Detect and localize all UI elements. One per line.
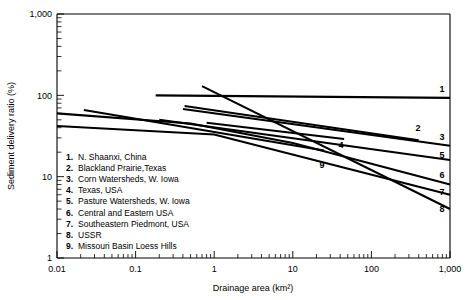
y-tick-label: 1 <box>47 253 52 263</box>
x-tick-label: 0.01 <box>48 264 66 274</box>
legend-label-1: N. Shaanxi, China <box>78 152 147 162</box>
legend-number-4: 4. <box>66 185 73 195</box>
legend-number-5: 5. <box>66 196 73 206</box>
x-tick-label: 100 <box>364 264 379 274</box>
legend-label-5: Pasture Watersheds, W. Iowa <box>78 196 190 206</box>
legend-label-9: Missouri Basin Loess Hills <box>78 241 177 251</box>
legend-number-7: 7. <box>66 219 73 229</box>
series-label-2: 2 <box>415 123 420 133</box>
legend-number-8: 8. <box>66 230 73 240</box>
series-label-9: 9 <box>319 160 324 170</box>
legend-number-9: 9. <box>66 241 73 251</box>
legend-label-3: Corn Watersheds, W. Iowa <box>78 174 179 184</box>
series-label-1: 1 <box>439 84 444 94</box>
legend-label-6: Central and Eastern USA <box>78 208 174 218</box>
legend-label-4: Texas, USA <box>78 185 123 195</box>
legend-label-2: Blackland Prairie,Texas <box>78 163 166 173</box>
sediment-delivery-ratio-chart: 0.010.11101001,000 1101001,000 123456789… <box>0 0 471 300</box>
x-axis-title: Drainage area (km²) <box>213 283 294 293</box>
series-label-3: 3 <box>439 132 444 142</box>
y-axis-title: Sediment delivery ratio (%) <box>6 82 16 190</box>
y-tick-label: 10 <box>42 172 52 182</box>
x-tick-label: 1 <box>212 264 217 274</box>
x-tick-label: 0.1 <box>129 264 142 274</box>
x-tick-label: 1,000 <box>439 264 462 274</box>
series-label-7: 7 <box>439 187 444 197</box>
legend-label-7: Southeastern Piedmont, USA <box>78 219 189 229</box>
series-label-5: 5 <box>439 150 444 160</box>
y-tick-label: 100 <box>37 91 52 101</box>
series-label-6: 6 <box>439 170 444 180</box>
legend-number-3: 3. <box>66 174 73 184</box>
chart-background <box>0 0 471 300</box>
legend-label-8: USSR <box>78 230 102 240</box>
legend-number-1: 1. <box>66 152 73 162</box>
chart-container: 0.010.11101001,000 1101001,000 123456789… <box>0 0 471 300</box>
y-tick-label: 1,000 <box>29 9 52 19</box>
legend-number-6: 6. <box>66 208 73 218</box>
series-label-8: 8 <box>439 204 444 214</box>
x-tick-label: 10 <box>288 264 298 274</box>
series-label-4: 4 <box>338 140 343 150</box>
legend-number-2: 2. <box>66 163 73 173</box>
